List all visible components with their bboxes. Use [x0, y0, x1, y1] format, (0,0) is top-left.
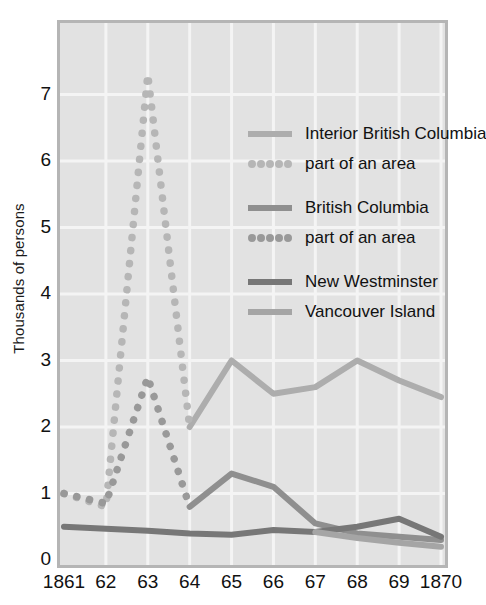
legend-swatch-solid-icon	[248, 267, 292, 297]
legend-item: Vancouver Island	[248, 297, 486, 327]
y-tick-label: 3	[11, 350, 51, 369]
legend-swatch-dotted-icon	[248, 149, 292, 179]
legend-label: Interior British Columbia	[305, 124, 486, 144]
legend-item: Interior British Columbia	[248, 119, 486, 149]
y-tick-label: 6	[11, 150, 51, 169]
legend-item: part of an area	[248, 223, 486, 253]
legend-label: Vancouver Island	[305, 302, 435, 322]
legend-label: part of an area	[305, 154, 416, 174]
legend-item: British Columbia	[248, 193, 486, 223]
y-tick-label: 4	[11, 283, 51, 302]
y-tick-label: 5	[11, 217, 51, 236]
legend-swatch-solid-icon	[248, 193, 292, 223]
y-tick-label: 0	[11, 549, 51, 568]
y-tick-label: 2	[11, 416, 51, 435]
legend-label: part of an area	[305, 228, 416, 248]
legend-item: New Westminster	[248, 267, 486, 297]
legend-swatch-dotted-icon	[248, 223, 292, 253]
legend-swatch-solid-icon	[248, 297, 292, 327]
x-tick-label: 1870	[411, 572, 471, 591]
plot-area: Interior British Columbiapart of an area…	[57, 20, 448, 568]
series-line	[64, 377, 190, 507]
legend-label: British Columbia	[305, 198, 429, 218]
legend-swatch-solid-icon	[248, 119, 292, 149]
y-tick-label: 1	[11, 483, 51, 502]
legend-label: New Westminster	[305, 272, 438, 292]
legend-item: part of an area	[248, 149, 486, 179]
y-tick-label: 7	[11, 84, 51, 103]
legend: Interior British Columbiapart of an area…	[248, 119, 486, 327]
y-axis-title: Thousands of persons	[10, 129, 27, 429]
